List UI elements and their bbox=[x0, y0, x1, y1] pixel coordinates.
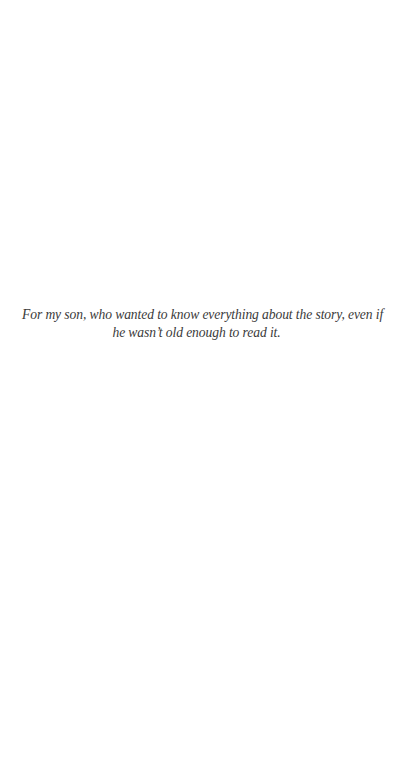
book-page: For my son, who wanted to know everythin… bbox=[0, 0, 393, 766]
dedication-text: For my son, who wanted to know everythin… bbox=[22, 306, 371, 342]
dedication-line-1: For my son, who wanted to know everythin… bbox=[22, 306, 371, 324]
dedication-line-2: he wasn’t old enough to read it. bbox=[22, 324, 371, 342]
